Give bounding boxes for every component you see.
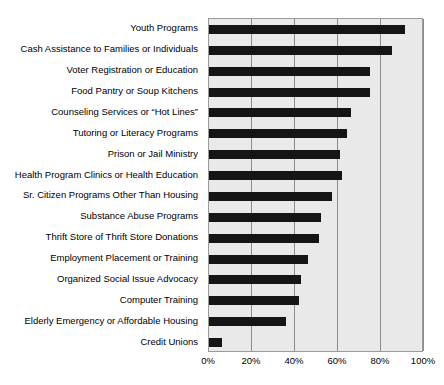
bar [209,296,299,305]
category-label: Counseling Services or “Hot Lines” [0,107,203,117]
plot-area [208,18,423,352]
category-label: Youth Programs [0,23,203,33]
category-label: Employment Placement or Training [0,253,203,263]
category-axis-labels: Youth ProgramsCash Assistance to Familie… [0,18,203,352]
x-tick-label: 80% [370,355,389,367]
bar [209,275,301,284]
bar [209,129,347,138]
category-label: Tutoring or Literacy Programs [0,128,203,138]
bar [209,108,351,117]
bar [209,25,405,34]
gridline-80 [380,19,381,351]
category-label: Computer Training [0,295,203,305]
x-tick-label: 100% [411,355,435,367]
category-label: Cash Assistance to Families or Individua… [0,44,203,54]
x-tick-label: 0% [201,355,215,367]
bar [209,338,222,347]
category-label: Health Program Clinics or Health Educati… [0,170,203,180]
category-label: Organized Social Issue Advocacy [0,274,203,284]
bar [209,213,321,222]
bar [209,171,342,180]
category-label: Substance Abuse Programs [0,211,203,221]
category-label: Food Pantry or Soup Kitchens [0,86,203,96]
x-tick-label: 40% [284,355,303,367]
category-label: Prison or Jail Ministry [0,149,203,159]
gridline-100 [423,19,424,351]
x-tick-label: 60% [327,355,346,367]
bar [209,46,392,55]
bar [209,150,340,159]
bar [209,317,286,326]
bar [209,255,308,264]
category-label: Thrift Store of Thrift Store Donations [0,232,203,242]
category-label: Voter Registration or Education [0,65,203,75]
category-label: Sr. Citizen Programs Other Than Housing [0,190,203,200]
category-label: Credit Unions [0,337,203,347]
bar [209,192,332,201]
bar [209,234,319,243]
category-label: Elderly Emergency or Affordable Housing [0,316,203,326]
bar [209,88,370,97]
bar [209,67,370,76]
x-tick-label: 20% [241,355,260,367]
value-axis-tick-labels: 0%20%40%60%80%100% [0,355,444,371]
horizontal-bar-chart: Youth ProgramsCash Assistance to Familie… [0,0,444,385]
